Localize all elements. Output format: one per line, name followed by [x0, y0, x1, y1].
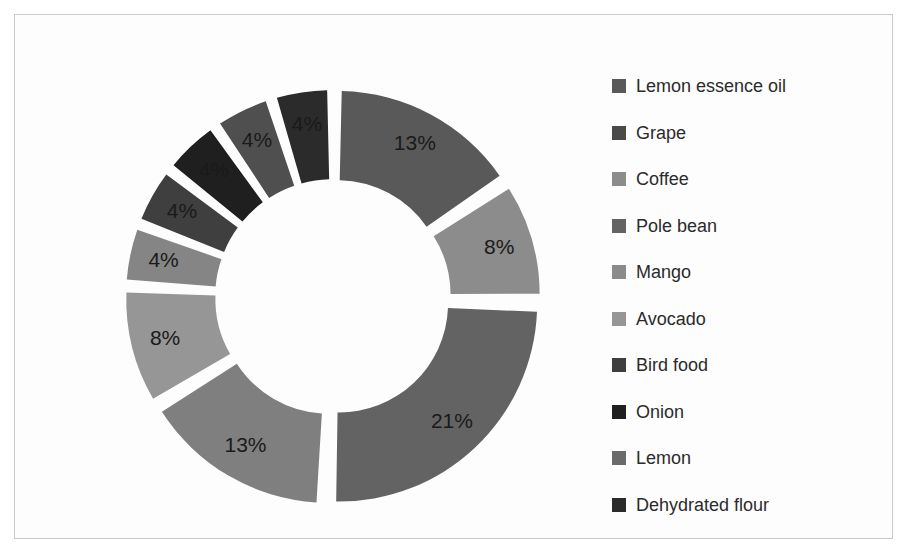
- donut-slice-label: 8%: [484, 235, 514, 258]
- legend-swatch-icon: [612, 172, 626, 186]
- legend-item[interactable]: Onion: [612, 389, 894, 436]
- legend-swatch-icon: [612, 265, 626, 279]
- legend-swatch-icon: [612, 79, 626, 93]
- donut-chart-svg: 13%8%21%13%8%4%4%4%4%4%: [15, 15, 605, 540]
- legend-swatch-icon: [612, 405, 626, 419]
- legend-item-label: Mango: [636, 263, 691, 281]
- legend-swatch-icon: [612, 312, 626, 326]
- chart-frame: 13%8%21%13%8%4%4%4%4%4% Lemon essence oi…: [14, 14, 893, 539]
- legend-item[interactable]: Mango: [612, 249, 894, 296]
- donut-slice-label: 4%: [292, 112, 322, 135]
- legend-item-label: Onion: [636, 403, 684, 421]
- legend-swatch-icon: [612, 358, 626, 372]
- legend-item-label: Avocado: [636, 310, 706, 328]
- legend-swatch-icon: [612, 219, 626, 233]
- legend-item[interactable]: Lemon: [612, 435, 894, 482]
- legend-swatch-icon: [612, 126, 626, 140]
- donut-slice-label: 21%: [431, 409, 473, 432]
- chart-legend: Lemon essence oilGrapeCoffeePole beanMan…: [612, 63, 894, 528]
- legend-swatch-icon: [612, 451, 626, 465]
- donut-slice-label: 4%: [199, 158, 229, 181]
- legend-item[interactable]: Avocado: [612, 296, 894, 343]
- legend-item-label: Dehydrated flour: [636, 496, 769, 514]
- legend-item-label: Grape: [636, 124, 686, 142]
- legend-item[interactable]: Grape: [612, 110, 894, 157]
- donut-slice-label: 4%: [167, 199, 197, 222]
- legend-item-label: Pole bean: [636, 217, 717, 235]
- legend-item-label: Bird food: [636, 356, 708, 374]
- legend-item-label: Lemon essence oil: [636, 77, 786, 95]
- legend-item[interactable]: Pole bean: [612, 203, 894, 250]
- legend-swatch-icon: [612, 498, 626, 512]
- legend-item[interactable]: Bird food: [612, 342, 894, 389]
- donut-slice-label: 4%: [148, 248, 178, 271]
- donut-slice[interactable]: [340, 91, 500, 227]
- donut-slice-label: 13%: [224, 433, 266, 456]
- donut-slice-label: 13%: [394, 131, 436, 154]
- legend-item[interactable]: Lemon essence oil: [612, 63, 894, 110]
- legend-item[interactable]: Coffee: [612, 156, 894, 203]
- donut-slice-label: 8%: [150, 326, 180, 349]
- legend-item-label: Lemon: [636, 449, 691, 467]
- donut-chart-area: 13%8%21%13%8%4%4%4%4%4%: [15, 15, 605, 540]
- legend-item-label: Coffee: [636, 170, 689, 188]
- donut-slice-group: [126, 90, 539, 502]
- donut-slice-label: 4%: [242, 128, 272, 151]
- legend-item[interactable]: Dehydrated flour: [612, 482, 894, 529]
- donut-slice[interactable]: [336, 308, 537, 501]
